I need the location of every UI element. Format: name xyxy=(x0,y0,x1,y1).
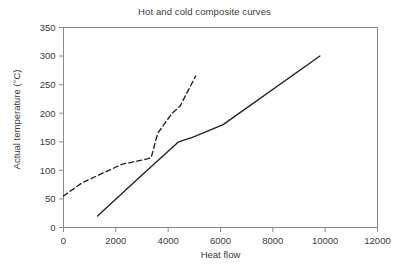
x-tick-label: 6000 xyxy=(210,235,231,246)
y-axis-tick-labels: 050100150200250300350 xyxy=(40,22,56,233)
plot-canvas: 020004000600080001000012000 050100150200… xyxy=(0,0,409,272)
data-series-group xyxy=(64,56,320,216)
y-tick-label: 350 xyxy=(40,22,56,33)
y-tick-label: 50 xyxy=(45,193,56,204)
y-axis-ticks xyxy=(59,28,64,228)
series-solid xyxy=(98,56,320,216)
x-tick-label: 0 xyxy=(61,235,66,246)
y-tick-label: 150 xyxy=(40,136,56,147)
x-tick-label: 4000 xyxy=(158,235,179,246)
y-tick-label: 250 xyxy=(40,79,56,90)
x-axis-ticks xyxy=(64,228,378,233)
y-tick-label: 0 xyxy=(50,222,55,233)
x-tick-label: 2000 xyxy=(105,235,126,246)
y-tick-label: 300 xyxy=(40,50,56,61)
chart-figure: Hot and cold composite curves Actual tem… xyxy=(0,0,409,272)
y-tick-label: 100 xyxy=(40,165,56,176)
y-tick-label: 200 xyxy=(40,108,56,119)
x-tick-label: 12000 xyxy=(364,235,390,246)
x-tick-label: 8000 xyxy=(262,235,283,246)
x-tick-label: 10000 xyxy=(312,235,338,246)
plot-frame xyxy=(64,28,378,228)
x-axis-tick-labels: 020004000600080001000012000 xyxy=(61,235,391,246)
series-dashed xyxy=(64,76,196,196)
